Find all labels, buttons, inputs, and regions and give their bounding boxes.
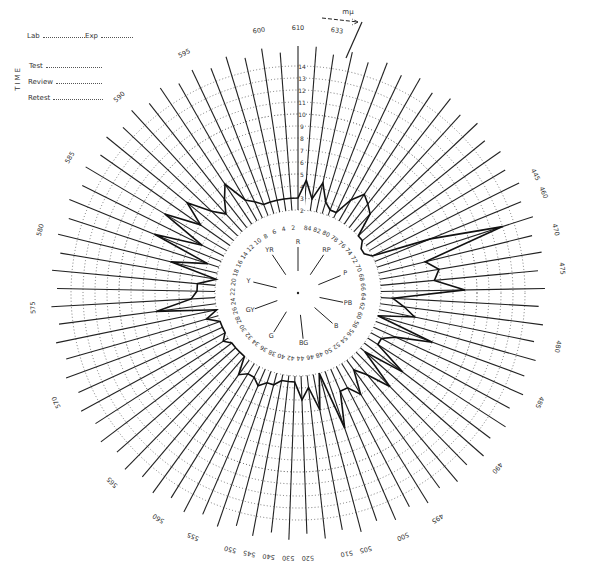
wavelength-label-460: 460	[537, 185, 549, 200]
cap-label-68: 68	[358, 273, 367, 282]
spoke-cap-19	[58, 234, 217, 273]
wavelength-label-570: 570	[50, 395, 62, 410]
cap-label-64: 64	[360, 293, 367, 301]
hue-label-G: G	[269, 332, 274, 340]
hue-axis-B	[315, 308, 333, 324]
cap-label-22: 22	[229, 288, 236, 296]
cap-label-70: 70	[354, 263, 363, 273]
cap-label-6: 6	[271, 228, 277, 236]
spoke-cap-80	[334, 75, 402, 218]
cap-label-40: 40	[276, 352, 285, 361]
cap-label-48: 48	[315, 351, 325, 360]
polar-score-chart: 2345678910111213142468101214161820222426…	[0, 0, 590, 578]
wavelength-label-555: 555	[186, 530, 201, 542]
hue-label-BG: BG	[299, 339, 308, 347]
wavelength-label-545: 545	[242, 549, 256, 559]
ring-label-5: 5	[300, 171, 304, 178]
wavelength-label-490: 490	[490, 461, 504, 476]
wavelength-label-480: 480	[553, 340, 563, 354]
cap-label-82: 82	[313, 226, 323, 235]
wavelength-label-505: 505	[359, 544, 373, 555]
ring-label-7: 7	[300, 147, 304, 154]
cap-label-50: 50	[323, 347, 333, 357]
wavelength-label-600: 600	[252, 26, 265, 36]
spoke-cap-17	[69, 200, 221, 262]
cap-label-62: 62	[358, 302, 366, 311]
spoke-cap-70	[375, 202, 521, 262]
spoke-cap-14	[100, 155, 230, 245]
hue-label-Y: Y	[245, 277, 250, 285]
cap-label-4: 4	[281, 225, 286, 233]
wavelength-label-470: 470	[550, 223, 561, 237]
wavelength-label-500: 500	[396, 530, 411, 542]
hue-label-RP: RP	[322, 246, 331, 254]
ring-label-6: 6	[300, 159, 304, 166]
wavelength-label-590: 590	[112, 90, 127, 104]
center-dot	[297, 292, 299, 294]
hue-label-P: P	[343, 269, 347, 277]
hue-label-B: B	[334, 322, 338, 330]
hue-label-YR: YR	[264, 246, 274, 254]
spoke-cap-81	[328, 63, 387, 216]
spoke-cap-20	[60, 253, 216, 279]
spectrum-end-marker	[346, 22, 362, 58]
cap-label-2: 2	[291, 224, 296, 231]
hue-axis-Y	[253, 282, 276, 288]
spoke-cap-43	[289, 376, 295, 540]
unit-arrow	[322, 18, 358, 25]
ring-label-14: 14	[298, 63, 306, 70]
wavelength-label-610: 610	[292, 24, 304, 32]
wavelength-label-560: 560	[151, 512, 166, 525]
spoke-cap-30	[95, 338, 228, 424]
hue-axis-YR	[272, 255, 285, 275]
cap-label-38: 38	[267, 349, 277, 359]
spoke-cap-58	[371, 333, 510, 409]
cap-label-18: 18	[231, 268, 240, 278]
cap-label-28: 28	[233, 315, 243, 325]
hue-label-GY: GY	[246, 306, 255, 314]
hue-axis-RP	[310, 255, 323, 275]
cap-label-60: 60	[355, 311, 364, 321]
cap-label-46: 46	[306, 354, 315, 362]
spoke-cap-46	[313, 375, 342, 530]
wavelength-label-595: 595	[177, 47, 192, 60]
cap-label-84: 84	[303, 224, 312, 232]
wavelength-label-520: 520	[301, 554, 314, 562]
spoke-cap-64	[381, 298, 539, 307]
spoke-cap-21	[52, 270, 215, 285]
cap-label-72: 72	[350, 254, 360, 264]
hue-label-PB: PB	[344, 299, 352, 307]
wavelength-label-475: 475	[558, 262, 567, 275]
spoke-cap-57	[368, 338, 506, 427]
spoke-cap-28	[78, 327, 222, 392]
ring-label-8: 8	[300, 135, 304, 142]
wavelength-label-580: 580	[35, 223, 46, 237]
hue-axis-G	[274, 312, 287, 332]
hue-axis-BG	[300, 315, 303, 339]
cap-label-30: 30	[238, 323, 248, 333]
hue-axis-PB	[320, 297, 344, 302]
spoke-cap-9	[160, 88, 251, 224]
cap-label-66: 66	[360, 283, 368, 291]
hue-label-R: R	[296, 238, 301, 246]
ring-label-10: 10	[298, 111, 306, 118]
hue-axis-P	[318, 276, 340, 285]
ring-label-2: 2	[300, 207, 304, 214]
ring-label-12: 12	[298, 87, 306, 94]
cap-label-24: 24	[229, 297, 237, 306]
cap-label-26: 26	[230, 306, 239, 315]
wavelength-label-585: 585	[63, 150, 76, 165]
wavelength-label-485: 485	[533, 395, 545, 410]
wavelength-label-550: 550	[223, 544, 237, 555]
spoke-cap-45	[307, 375, 325, 538]
spoke-cap-38	[203, 369, 265, 514]
wavelength-label-575: 575	[29, 301, 38, 314]
wavelength-label-445: 445	[529, 167, 542, 182]
spoke-cap-7	[192, 70, 262, 218]
cap-label-42: 42	[286, 355, 295, 363]
wavelength-label-510: 510	[340, 549, 354, 559]
wavelength-label-495: 495	[430, 512, 445, 525]
cap-label-10: 10	[252, 236, 262, 246]
spoke-cap-41	[253, 375, 283, 536]
cap-label-8: 8	[262, 232, 269, 240]
